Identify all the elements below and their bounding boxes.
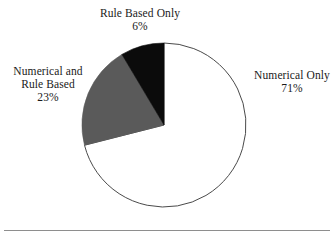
pie-label-rule-based-only-percent: 6% — [80, 20, 200, 33]
pie-chart-figure: Rule Based Only 6% Numerical and Rule Ba… — [0, 0, 334, 240]
pie-label-numerical-and-rule-based-percent: 23% — [2, 91, 94, 104]
pie-label-numerical-only-percent: 71% — [248, 82, 334, 95]
pie-label-numerical-and-rule-based: Numerical and Rule Based 23% — [2, 65, 94, 104]
pie-label-numerical-only-text: Numerical Only — [248, 69, 334, 82]
pie-label-rule-based-only: Rule Based Only 6% — [80, 7, 200, 33]
footer-divider — [4, 230, 330, 231]
pie-chart-graphic — [0, 0, 334, 240]
pie-label-numerical-and-rule-based-text-line2: Rule Based — [2, 78, 94, 91]
pie-label-rule-based-only-text: Rule Based Only — [80, 7, 200, 20]
pie-label-numerical-and-rule-based-text-line1: Numerical and — [2, 65, 94, 78]
pie-label-numerical-only: Numerical Only 71% — [248, 69, 334, 95]
